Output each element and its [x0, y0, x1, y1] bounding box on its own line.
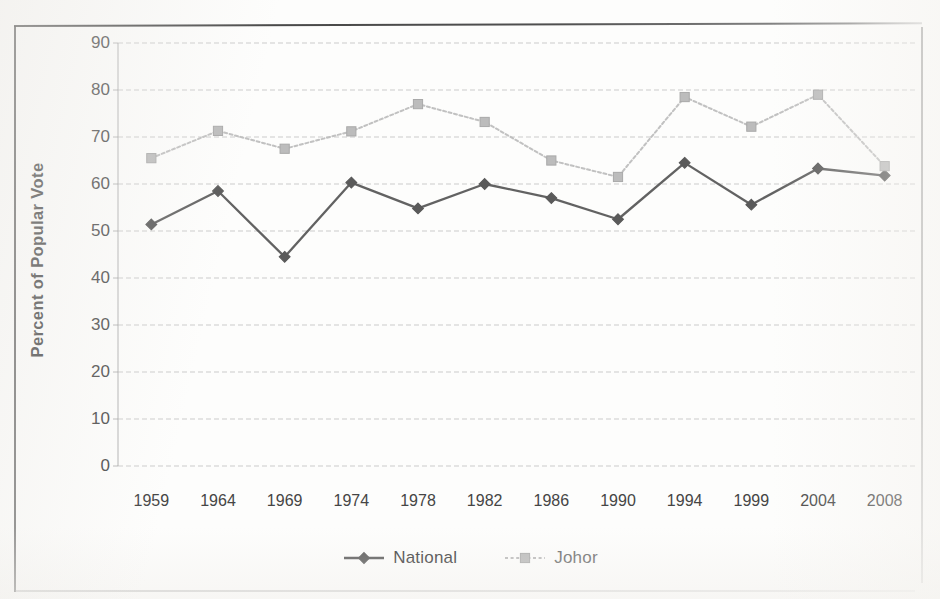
- data-point-marker: [746, 199, 757, 210]
- chart-figure: Percent of Popular Vote 9080706050403020…: [0, 0, 940, 599]
- data-point-marker: [480, 117, 489, 126]
- data-point-marker: [813, 90, 822, 99]
- x-axis-tick-label: 1969: [248, 492, 322, 510]
- data-point-marker: [146, 219, 157, 230]
- data-point-marker: [613, 172, 622, 181]
- x-axis-tick-label: 1964: [181, 492, 255, 510]
- data-point-marker: [521, 553, 530, 562]
- data-point-marker: [813, 163, 824, 174]
- data-point-marker: [479, 179, 490, 190]
- x-axis-tick-label: 1999: [714, 492, 788, 510]
- frame-border-left: [14, 26, 16, 592]
- series-national: [146, 157, 890, 262]
- y-axis-tick-label: 10: [68, 409, 110, 429]
- y-axis-tick-label: 30: [68, 315, 110, 335]
- legend-entry-johor[interactable]: Johor: [503, 548, 598, 568]
- y-axis-tick-label: 20: [68, 362, 110, 382]
- y-axis-tick-label: 0: [68, 456, 110, 476]
- y-axis-tick-label: 70: [68, 127, 110, 147]
- data-point-marker: [747, 122, 756, 131]
- frame-border-bottom: [15, 590, 915, 592]
- diamond-marker-icon: [342, 550, 386, 566]
- data-point-marker: [280, 144, 289, 153]
- y-axis-tick-labels: 9080706050403020100: [60, 43, 110, 466]
- frame-border-top: [14, 22, 922, 27]
- frame-border-right: [921, 27, 923, 583]
- data-point-marker: [547, 156, 556, 165]
- x-axis-tick-label: 1959: [114, 492, 188, 510]
- x-axis-tick-label: 1982: [448, 492, 522, 510]
- line-chart-svg: [118, 43, 918, 466]
- x-axis-tick-label: 2004: [781, 492, 855, 510]
- data-point-marker: [359, 553, 370, 564]
- y-axis-title: Percent of Popular Vote: [28, 95, 47, 425]
- series-johor: [147, 90, 890, 181]
- series-line: [151, 163, 884, 257]
- x-axis-tick-labels: 1959196419691974197819821986199019941999…: [118, 492, 918, 522]
- data-point-marker: [680, 92, 689, 101]
- x-axis-tick-label: 2008: [848, 492, 922, 510]
- square-marker-icon: [503, 550, 547, 566]
- data-point-marker: [147, 154, 156, 163]
- y-axis-tick-label: 90: [68, 33, 110, 53]
- x-axis-tick-label: 1986: [514, 492, 588, 510]
- data-point-marker: [347, 127, 356, 136]
- data-point-marker: [413, 100, 422, 109]
- plot-area: [118, 43, 918, 466]
- data-point-marker: [546, 193, 557, 204]
- y-axis-tick-label: 60: [68, 174, 110, 194]
- x-axis-tick-label: 1974: [314, 492, 388, 510]
- y-axis-tick-label: 40: [68, 268, 110, 288]
- y-axis-tick-label: 80: [68, 80, 110, 100]
- data-point-marker: [880, 162, 889, 171]
- series-line: [151, 95, 884, 177]
- data-point-marker: [879, 170, 890, 181]
- x-axis-tick-label: 1990: [581, 492, 655, 510]
- data-point-marker: [413, 203, 424, 214]
- legend-label: National: [393, 548, 457, 568]
- legend-label: Johor: [554, 548, 598, 568]
- y-axis-tick-label: 50: [68, 221, 110, 241]
- legend-entry-national[interactable]: National: [342, 548, 457, 568]
- data-point-marker: [213, 126, 222, 135]
- chart-legend: NationalJohor: [0, 548, 940, 568]
- x-axis-tick-label: 1994: [648, 492, 722, 510]
- x-axis-tick-label: 1978: [381, 492, 455, 510]
